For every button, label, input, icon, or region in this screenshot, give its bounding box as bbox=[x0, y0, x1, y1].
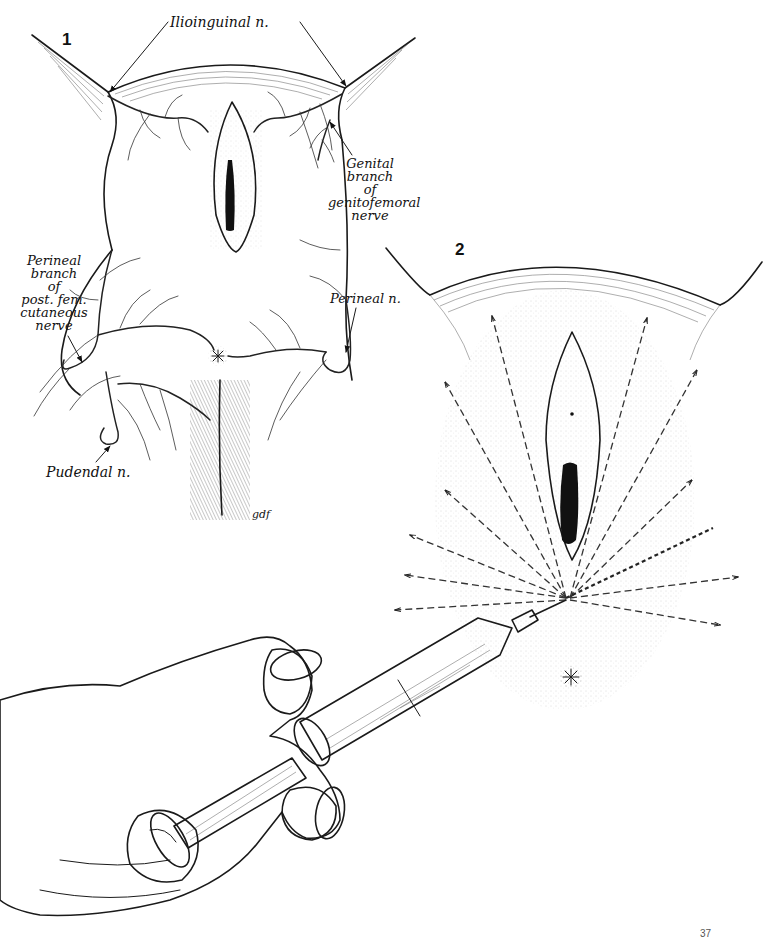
right-groin-hatching bbox=[346, 44, 408, 110]
fig2-anus-mark bbox=[560, 666, 582, 688]
figure-2-drawing bbox=[386, 248, 762, 710]
arrow-genital-branch bbox=[330, 122, 352, 155]
perineal-branch-post-fem-cutaneous-nerve bbox=[34, 250, 214, 416]
illustration-canvas bbox=[0, 0, 765, 941]
arrow-ilioinguinal-left bbox=[110, 22, 168, 92]
fig2-right-thigh bbox=[720, 262, 762, 305]
finger-crease bbox=[60, 860, 170, 865]
figure-1-drawing bbox=[32, 22, 415, 520]
arrow-perineal-branch bbox=[68, 336, 82, 362]
left-lower-outline bbox=[61, 250, 112, 395]
left-thigh-outline bbox=[32, 35, 116, 250]
right-thigh-outline bbox=[339, 38, 415, 140]
middle-finger-tip bbox=[282, 787, 336, 840]
anus-mark bbox=[208, 346, 228, 366]
finger-crease bbox=[40, 890, 180, 898]
fig2-central-dark-region bbox=[560, 463, 578, 545]
arrow-ilioinguinal-right bbox=[300, 22, 346, 86]
syringe-plunger-rod bbox=[174, 758, 306, 848]
mons-hatching bbox=[115, 71, 338, 101]
fig2-left-thigh bbox=[386, 248, 430, 295]
index-finger-tip bbox=[264, 649, 312, 714]
pudendal-nerve bbox=[70, 372, 210, 460]
fig2-center-dot bbox=[570, 412, 574, 416]
mons-outline bbox=[108, 65, 345, 92]
plunger-rod-shading bbox=[186, 766, 296, 840]
syringe-plunger-front bbox=[398, 680, 420, 716]
arrow-pudendal-nerve bbox=[96, 446, 110, 462]
